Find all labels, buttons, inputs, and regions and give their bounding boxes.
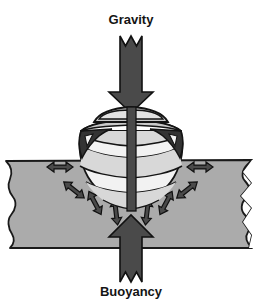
buoyancy-label: Buoyancy — [100, 284, 163, 299]
buoyancy-diagram: Gravity — [0, 0, 261, 308]
diagram-canvas: Gravity — [0, 0, 261, 308]
gravity-label: Gravity — [109, 12, 155, 27]
